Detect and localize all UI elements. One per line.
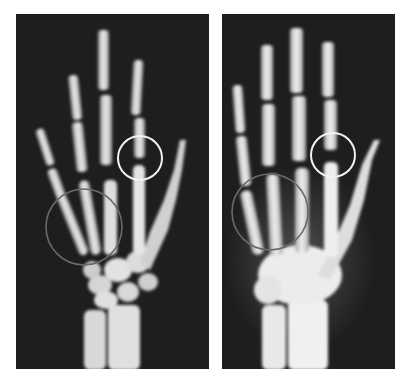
left-xray-panel <box>16 14 209 369</box>
right-xray-panel <box>222 14 395 369</box>
left-hand-xray-image <box>16 14 209 369</box>
right-hand-xray-image <box>222 14 395 369</box>
